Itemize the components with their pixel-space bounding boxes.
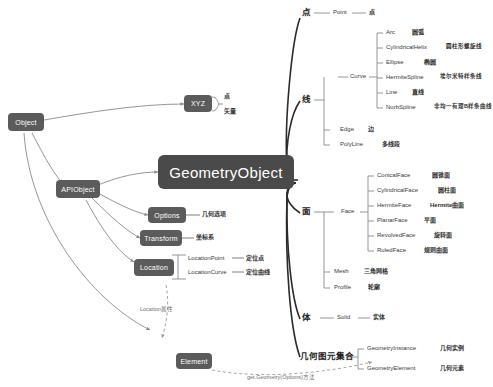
node-location-label: Location <box>140 264 168 271</box>
node-geometryobject-label: GeometryObject <box>169 164 282 181</box>
face-child-en-2: HermiteFace <box>377 202 411 208</box>
xyz-child-point: 点 <box>224 93 230 99</box>
node-geometryobject[interactable]: GeometryObject <box>158 155 294 189</box>
branch-3-item-cn-0: 实体 <box>373 314 385 320</box>
node-xyz-label: XYZ <box>191 100 205 107</box>
node-object-label: Object <box>15 119 36 126</box>
face-extra-cn-0: 三角网格 <box>364 268 388 274</box>
mindmap-canvas: Object APIObject GeometryObject XYZ Opti… <box>0 0 493 387</box>
branch-label-line: 线 <box>302 95 311 104</box>
branch-3-item-en-0: Solid <box>337 314 350 320</box>
curve-child-en-0: Arc <box>386 29 395 35</box>
face-child-cn-2: Hermite曲面 <box>430 202 464 208</box>
node-apiobject-label: APIObject <box>61 186 94 193</box>
node-location[interactable]: Location <box>134 259 174 276</box>
location-child-en-0: LocationPoint <box>188 255 224 261</box>
annotation-location-attr: Location属性 <box>140 307 173 313</box>
face-extra-en-0: Mesh <box>334 268 349 274</box>
branch-label-point: 点 <box>302 8 311 17</box>
line-extra-cn-1: 多线段 <box>382 141 400 147</box>
branch-label-geometry-set: 几何图元集合 <box>300 352 354 361</box>
face-child-cn-0: 圆锥面 <box>432 172 450 178</box>
branch-0-item-en-0: Point <box>333 9 347 15</box>
curve-child-cn-3: 埃尔米特样条线 <box>440 74 482 80</box>
face-extra-cn-1: 轮廓 <box>368 284 380 290</box>
face-child-en-0: ConicalFace <box>377 172 410 178</box>
node-transform-label: Transform <box>144 235 177 242</box>
face-child-cn-4: 旋转面 <box>434 232 452 238</box>
branch-4-item-en-1: GeometryElement <box>367 365 415 371</box>
line-extra-en-1: PolyLine <box>340 141 363 147</box>
curve-child-cn-2: 椭圆 <box>424 59 436 65</box>
node-transform[interactable]: Transform <box>140 230 182 246</box>
curve-child-cn-1: 圆柱形螺旋线 <box>446 44 482 50</box>
branch-2-group-label: Face <box>341 208 354 214</box>
annotation-get-geometry: get.Geometry(Options)方法 <box>247 375 315 381</box>
options-side-label: 几何选项 <box>202 211 226 217</box>
curve-child-cn-4: 直线 <box>412 89 424 95</box>
branch-label-face: 面 <box>302 207 311 216</box>
branch-4-item-cn-1: 几何元素 <box>440 365 464 371</box>
location-child-cn-0: 定位点 <box>246 255 264 261</box>
branch-4-item-en-0: GeometryInstance <box>367 345 416 351</box>
node-element-label: Element <box>180 358 207 365</box>
curve-child-en-3: HermiteSpline <box>386 74 424 80</box>
node-object[interactable]: Object <box>8 113 44 131</box>
face-child-cn-5: 规则曲面 <box>424 247 448 253</box>
branch-label-solid: 体 <box>302 313 311 322</box>
location-child-cn-1: 定位曲线 <box>246 269 270 275</box>
curve-child-en-5: NurbSpline <box>386 104 416 110</box>
node-element[interactable]: Element <box>176 353 212 369</box>
curve-child-en-1: CylindricalHelix <box>386 44 427 50</box>
line-extra-en-0: Edge <box>340 126 354 132</box>
face-child-en-4: RevolvedFace <box>377 232 415 238</box>
curve-child-cn-0: 圆弧 <box>412 29 424 35</box>
face-extra-en-1: Profile <box>334 284 351 290</box>
line-extra-cn-0: 边 <box>368 126 374 132</box>
curve-child-cn-5: 非均一有理B样条曲线 <box>434 104 492 110</box>
branch-4-item-cn-0: 几何实例 <box>440 345 464 351</box>
branch-1-group-label: Curve <box>350 73 366 79</box>
location-child-en-1: LocationCurve <box>188 269 227 275</box>
face-child-cn-3: 平面 <box>424 217 436 223</box>
curve-child-en-4: Line <box>386 89 397 95</box>
face-child-en-1: CylindricalFace <box>377 187 418 193</box>
xyz-child-vector: 矢量 <box>224 108 236 114</box>
face-child-cn-1: 圆柱面 <box>438 187 456 193</box>
branch-0-item-cn-0: 点 <box>369 9 375 15</box>
face-child-en-5: RuledFace <box>377 247 406 253</box>
face-child-en-3: PlanarFace <box>377 217 408 223</box>
transform-side-label: 坐标系 <box>196 234 214 240</box>
node-apiobject[interactable]: APIObject <box>56 180 100 198</box>
node-options-label: Options <box>154 212 180 219</box>
node-xyz[interactable]: XYZ <box>184 95 212 112</box>
node-options[interactable]: Options <box>148 207 186 223</box>
curve-child-en-2: Ellipse <box>386 59 404 65</box>
